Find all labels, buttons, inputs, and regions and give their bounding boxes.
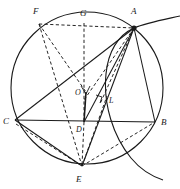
segment-F-D: [39, 24, 86, 92]
label-G: G: [80, 8, 87, 18]
geometry-diagram: F G A C B O L D E: [0, 0, 180, 189]
label-E: E: [75, 174, 82, 184]
secondary-arc-through-A: [105, 16, 180, 180]
label-B: B: [161, 117, 167, 127]
segment-A-D: [84, 28, 134, 122]
label-D: D: [75, 125, 82, 134]
segment-F-A: [39, 24, 134, 28]
solid-segment-group: [15, 28, 155, 166]
segment-C-E: [15, 120, 82, 166]
vertex-dot-A: [131, 25, 136, 30]
label-C: C: [3, 116, 10, 126]
label-L: L: [108, 96, 114, 105]
label-O: O: [75, 88, 81, 97]
segment-A-B: [134, 28, 155, 122]
label-F: F: [32, 6, 39, 16]
segment-D-E: [82, 122, 84, 166]
segment-A-O: [84, 28, 134, 100]
segment-E-B: [82, 122, 155, 166]
segment-A-L: [100, 28, 134, 104]
label-A: A: [130, 6, 137, 16]
main-circumscribed-circle: [11, 12, 163, 164]
diagram-canvas: F G A C B O L D E: [0, 0, 180, 189]
